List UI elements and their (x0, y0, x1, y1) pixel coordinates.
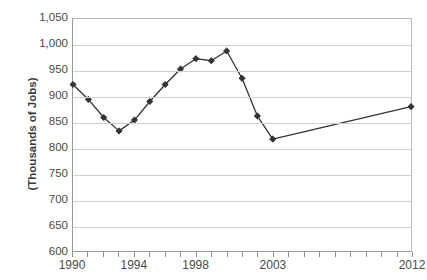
y-axis-tick-label: 950 (20, 64, 68, 76)
x-axis-tick-label: 2012 (399, 258, 426, 272)
x-axis-tick (257, 252, 258, 257)
data-point-marker (239, 75, 245, 81)
x-axis-tick (149, 252, 150, 257)
x-axis-tick-label: 1998 (182, 258, 209, 272)
series-jobs (73, 19, 411, 251)
y-axis-tick-labels: 6006507007508008509009501,0001,050 (12, 0, 68, 280)
gridline (73, 201, 411, 202)
x-axis-tick (134, 252, 135, 257)
gridline (73, 97, 411, 98)
x-axis-tick (227, 252, 228, 257)
gridline (73, 45, 411, 46)
x-axis-tick (412, 252, 413, 257)
x-axis-tick (165, 252, 166, 257)
x-axis-tick (335, 252, 336, 257)
y-axis-tick-label: 800 (20, 142, 68, 154)
x-axis-tick-labels: 19901994199820032012 (0, 258, 427, 278)
x-axis-tick (118, 252, 119, 257)
data-point-marker (224, 48, 230, 54)
series-line (73, 51, 411, 139)
x-axis-tick (72, 252, 73, 257)
x-axis-tick (242, 252, 243, 257)
gridline (73, 175, 411, 176)
y-axis-tick-label: 750 (20, 168, 68, 180)
x-axis-tick (87, 252, 88, 257)
gridline (73, 123, 411, 124)
y-axis-tick-label: 1,050 (20, 12, 68, 24)
x-axis-tick-label: 2003 (260, 258, 287, 272)
x-axis-tick (319, 252, 320, 257)
data-point-marker (208, 58, 214, 64)
x-axis-tick (196, 252, 197, 257)
x-axis-tick (366, 252, 367, 257)
y-axis-tick-label: 850 (20, 116, 68, 128)
x-axis-tick (288, 252, 289, 257)
x-axis-tick (304, 252, 305, 257)
x-axis-tick (103, 252, 104, 257)
x-axis-tick-label: 1994 (120, 258, 147, 272)
x-axis-tick (273, 252, 274, 257)
gridline (73, 149, 411, 150)
y-axis-tick-label: 650 (20, 220, 68, 232)
x-axis-tick (211, 252, 212, 257)
y-axis-tick-label: 600 (20, 246, 68, 258)
gridline (73, 71, 411, 72)
y-axis-tick-label: 700 (20, 194, 68, 206)
line-chart: (Thousands of Jobs) 60065070075080085090… (0, 0, 427, 280)
chart-title-fragment (298, 0, 324, 2)
plot-area (72, 18, 412, 252)
x-axis-tick (397, 252, 398, 257)
x-axis-tick-label: 1990 (59, 258, 86, 272)
x-axis-tick (350, 252, 351, 257)
data-point-marker (408, 104, 414, 110)
y-axis-tick-label: 900 (20, 90, 68, 102)
x-axis-tick (180, 252, 181, 257)
y-axis-tick-label: 1,000 (20, 38, 68, 50)
x-axis-tick (381, 252, 382, 257)
gridline (73, 227, 411, 228)
